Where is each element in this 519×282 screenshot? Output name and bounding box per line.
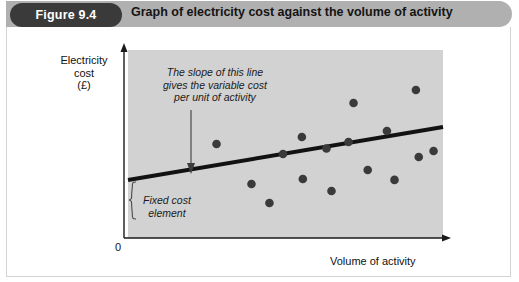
y-axis-label: Electricity cost (£)	[53, 54, 115, 92]
x-axis-label: Volume of activity	[330, 255, 416, 268]
figure-number-badge: Figure 9.4	[10, 3, 122, 27]
origin-label: 0	[115, 241, 121, 254]
figure-container: Figure 9.4 Graph of electricity cost aga…	[0, 0, 519, 282]
slope-annotation-text: The slope of this line gives the variabl…	[163, 66, 267, 104]
figure-title: Graph of electricity cost against the vo…	[131, 5, 453, 19]
figure-number-label: Figure 9.4	[35, 8, 96, 22]
fixed-cost-annotation-text: Fixed cost element	[143, 194, 191, 219]
